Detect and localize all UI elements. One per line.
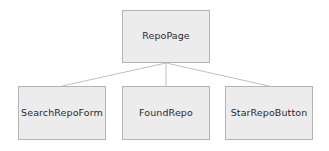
- node-label-searchrepoform: SearchRepoForm: [21, 108, 103, 118]
- node-starrepobutton[interactable]: StarRepoButton: [225, 86, 313, 140]
- node-repopage[interactable]: RepoPage: [122, 10, 210, 63]
- node-label-repopage: RepoPage: [142, 31, 190, 41]
- component-tree-diagram: RepoPage SearchRepoForm FoundRepo StarRe…: [0, 0, 329, 151]
- node-searchrepoform[interactable]: SearchRepoForm: [18, 86, 106, 140]
- node-label-starrepobutton: StarRepoButton: [231, 108, 308, 118]
- node-label-foundrepo: FoundRepo: [139, 108, 193, 118]
- edge-root-to-starrepobutton: [166, 63, 269, 86]
- edge-root-to-searchrepoform: [62, 63, 166, 86]
- node-foundrepo[interactable]: FoundRepo: [122, 86, 210, 140]
